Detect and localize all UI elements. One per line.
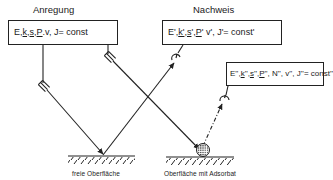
incident-beam-adsorbate bbox=[113, 61, 199, 149]
source-icon bbox=[104, 51, 115, 62]
free-surface-caption: freie Oberfläche bbox=[72, 171, 120, 178]
detection-title: Nachweis bbox=[193, 5, 234, 15]
const-label: = const'' bbox=[304, 70, 333, 78]
adsorbate-particle-icon bbox=[197, 144, 210, 157]
box-connectors bbox=[43, 45, 228, 95]
excitation-parameters-box: E, k, s ,P.v, J = const bbox=[8, 20, 118, 45]
const-label: = const bbox=[58, 28, 87, 37]
const-label: = const' bbox=[223, 28, 254, 37]
quantum-numbers: '', N'', v'', J'' bbox=[265, 70, 304, 78]
energy-symbol: E', bbox=[168, 28, 178, 37]
quantum-numbers: ' v', J' bbox=[202, 28, 224, 37]
energy-symbol: E, bbox=[14, 28, 23, 37]
adsorbate-surface-caption: Oberfläche mit Adsorbat bbox=[164, 171, 236, 178]
hatched-surface-icon bbox=[166, 157, 234, 165]
energy-symbol: E'', bbox=[230, 70, 241, 78]
hatched-surface-icon bbox=[68, 156, 135, 164]
source-icon bbox=[38, 80, 49, 91]
quantum-numbers: .v, J bbox=[43, 28, 59, 37]
detector-icon bbox=[220, 95, 229, 101]
incident-beam-free bbox=[47, 90, 103, 154]
detection-adsorbate-parameters-box: E'', k'', s '', P'', N'', v'', J'' = con… bbox=[226, 62, 324, 86]
excitation-title: Anregung bbox=[33, 5, 74, 15]
detector-icon bbox=[172, 54, 180, 60]
detection-parameters-box: E', k', s ', P' v', J' = const' bbox=[162, 20, 282, 45]
emitted-beam bbox=[203, 104, 222, 146]
reflected-beam bbox=[103, 63, 174, 155]
